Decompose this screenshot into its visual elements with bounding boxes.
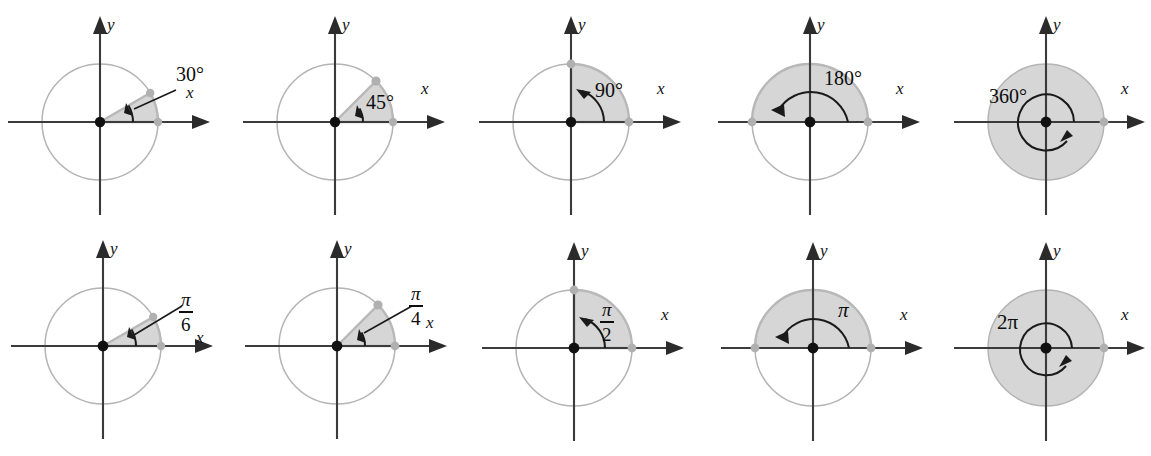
panel-deg-90: y x 90° [472,0,708,228]
x-axis-arrowhead [1127,115,1145,129]
angle-measure-label: 180° [824,68,862,88]
angle-measure-label: 2π [997,312,1018,333]
fraction-bar [600,321,614,323]
angle-measure-label: 30° [176,64,204,84]
x-axis-label: x [426,314,434,331]
y-axis-arrowhead [93,16,107,34]
initial-point-dot [146,89,154,97]
x-axis-label: x [1121,306,1129,323]
y-axis-arrowhead [328,16,342,34]
origin-dot [805,117,816,128]
x-axis-arrowhead [429,339,447,353]
y-axis-label: y [817,16,825,33]
panel-deg-180-graphic [708,0,944,228]
x-axis-label: x [1121,80,1129,97]
y-axis-label: y [342,16,350,33]
origin-dot [330,117,340,127]
panel-rad-pi-graphic [708,228,944,456]
angle-measure-label: 45° [366,92,394,112]
x-axis-arrowhead [663,115,681,129]
y-axis-label: y [820,242,828,259]
origin-dot [569,343,580,354]
panel-rad-pi-4-graphic [236,228,472,456]
y-axis-arrowhead [96,240,110,258]
angle-figure: y x 30° y x 45° [0,0,1151,456]
x-axis-label: x [896,80,904,97]
panel-deg-90-graphic [472,0,708,228]
y-axis-arrowhead [330,240,344,258]
initial-point-dot [371,76,380,85]
angle-measure-label: 90° [595,80,623,100]
fraction-denominator: 2 [600,324,614,345]
origin-dot [98,341,109,352]
initial-point-dot [751,344,760,353]
panel-deg-45: y x 45° [236,0,472,228]
fraction-denominator: 4 [409,308,423,329]
panel-rad-2pi-graphic [915,228,1151,456]
fraction-numerator: π [409,284,423,305]
y-axis-arrowhead [806,242,820,260]
y-axis-label: y [1053,242,1061,259]
y-axis-arrowhead [1039,242,1053,260]
terminal-point-dot [157,342,165,350]
panel-deg-360: y x 360° [915,0,1151,228]
y-axis-label: y [578,16,586,33]
initial-point-dot [748,118,757,127]
y-axis-arrowhead [1039,16,1053,34]
x-axis-label: x [186,84,194,101]
terminal-point-dot [1100,344,1109,353]
origin-dot [808,343,819,354]
panel-deg-180: y x 180° [708,0,944,228]
panel-rad-pi: y x π [708,228,944,456]
panel-deg-30-graphic [0,0,236,228]
fraction-bar [409,305,423,307]
panel-deg-30: y x 30° [0,0,236,228]
angle-measure-label: 360° [989,86,1027,106]
terminal-point-dot [628,344,637,353]
y-axis-label: y [107,16,115,33]
y-axis-arrowhead [803,16,817,34]
terminal-point-dot [391,342,400,351]
panel-deg-45-graphic [236,0,472,228]
panel-rad-pi-4: y x π 4 [236,228,472,456]
y-axis-label: y [344,240,352,257]
origin-dot [1041,117,1052,128]
origin-dot [566,117,576,127]
x-axis-label: x [657,80,665,97]
y-axis-label: y [110,240,118,257]
y-axis-label: y [1053,16,1061,33]
origin-dot [1040,342,1051,353]
x-axis-arrowhead [192,115,210,129]
origin-dot [95,117,105,127]
fraction-numerator: π [179,290,193,311]
terminal-point-dot [389,118,397,126]
x-axis-arrowhead [666,341,684,355]
panel-rad-pi-2-graphic [472,228,708,456]
initial-point-dot [570,286,579,295]
initial-point-dot [149,313,157,321]
initial-point-dot [567,60,576,69]
origin-dot [332,341,343,352]
panel-rad-2pi: y x 2π [915,228,1151,456]
y-axis-label: y [581,242,589,259]
x-axis-label: x [421,80,429,97]
panel-deg-360-graphic [915,0,1151,228]
angle-measure-label: π 4 [409,284,423,328]
terminal-point-dot [864,118,873,127]
initial-point-dot [373,300,382,309]
angle-measure-label: π [838,300,849,321]
panel-rad-pi-6: y x π 6 [0,228,236,456]
fraction-numerator: π [600,300,614,321]
angle-sector [337,305,395,346]
x-axis-arrowhead [427,115,445,129]
x-axis-arrowhead [1127,341,1145,355]
y-axis-arrowhead [567,242,581,260]
x-axis-label: x [661,306,669,323]
x-axis-label: x [900,306,908,323]
fraction-bar [179,311,193,313]
terminal-point-dot [1100,118,1109,127]
angle-measure-label: π 2 [600,300,614,344]
y-axis-arrowhead [564,16,578,34]
x-axis-label: x [196,329,204,346]
fraction-denominator: 6 [179,314,193,335]
